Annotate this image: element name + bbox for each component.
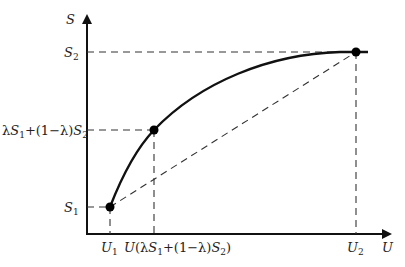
y-label-mix: λS1+(1−λ)S2 [2, 123, 88, 140]
point-mix [150, 126, 159, 135]
point-s2 [352, 48, 361, 57]
y-label-s2: S2 [64, 45, 79, 62]
y-label-s1: S1 [64, 200, 79, 217]
x-label-u2: U2 [347, 240, 364, 257]
x-label-u1: U1 [101, 240, 118, 257]
point-s1 [106, 203, 115, 212]
guide-lines [87, 52, 356, 234]
x-label-umix: U)(λS1+(1−λ)S2) [124, 240, 231, 257]
x-axis-label: U [382, 240, 394, 255]
concave-function-diagram: S U S2 λS1+(1−λ)S2 S1 U1 U)(λS1+(1−λ)S2)… [0, 0, 405, 267]
y-axis-label: S [66, 12, 75, 27]
